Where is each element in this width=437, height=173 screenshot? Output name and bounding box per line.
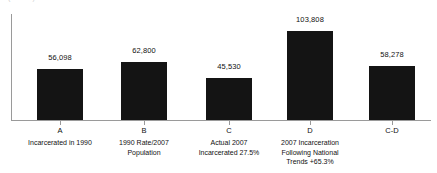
bar-a[interactable] xyxy=(37,69,83,120)
bar-chart: (cut off) 56,098 62,800 45,530 103,808 5… xyxy=(0,0,437,173)
x-axis-tick-a xyxy=(60,120,61,125)
bar-slot-c-d: 58,278 xyxy=(350,14,434,120)
plot-area: 56,098 62,800 45,530 103,808 58,278 xyxy=(12,14,431,120)
x-axis-tick-c-d xyxy=(392,120,393,125)
bar-slot-d: 103,808 xyxy=(268,14,352,120)
x-axis-tick-d xyxy=(310,120,311,125)
bar-b[interactable] xyxy=(121,62,167,120)
bar-slot-b: 62,800 xyxy=(102,14,186,120)
x-axis-tick-b xyxy=(144,120,145,125)
bar-c-d[interactable] xyxy=(369,66,415,120)
bar-value-c: 45,530 xyxy=(217,62,241,71)
bar-value-b: 62,800 xyxy=(132,46,156,55)
category-label-c-d: C-D xyxy=(336,126,437,138)
bar-slot-a: 56,098 xyxy=(18,14,102,120)
bar-value-a: 56,098 xyxy=(48,53,72,62)
x-axis-tick-c xyxy=(229,120,230,125)
bar-slot-c: 45,530 xyxy=(187,14,271,120)
bar-value-d: 103,808 xyxy=(296,15,324,24)
clipped-title-fragment: (cut off) xyxy=(8,0,35,2)
x-axis-line xyxy=(11,120,431,121)
category-key-c-d: C-D xyxy=(336,126,437,136)
bar-d[interactable] xyxy=(287,31,333,120)
bar-value-c-d: 58,278 xyxy=(380,50,404,59)
category-desc-d: 2007 Incarceration Following National Tr… xyxy=(254,138,366,167)
bar-c[interactable] xyxy=(206,78,252,120)
